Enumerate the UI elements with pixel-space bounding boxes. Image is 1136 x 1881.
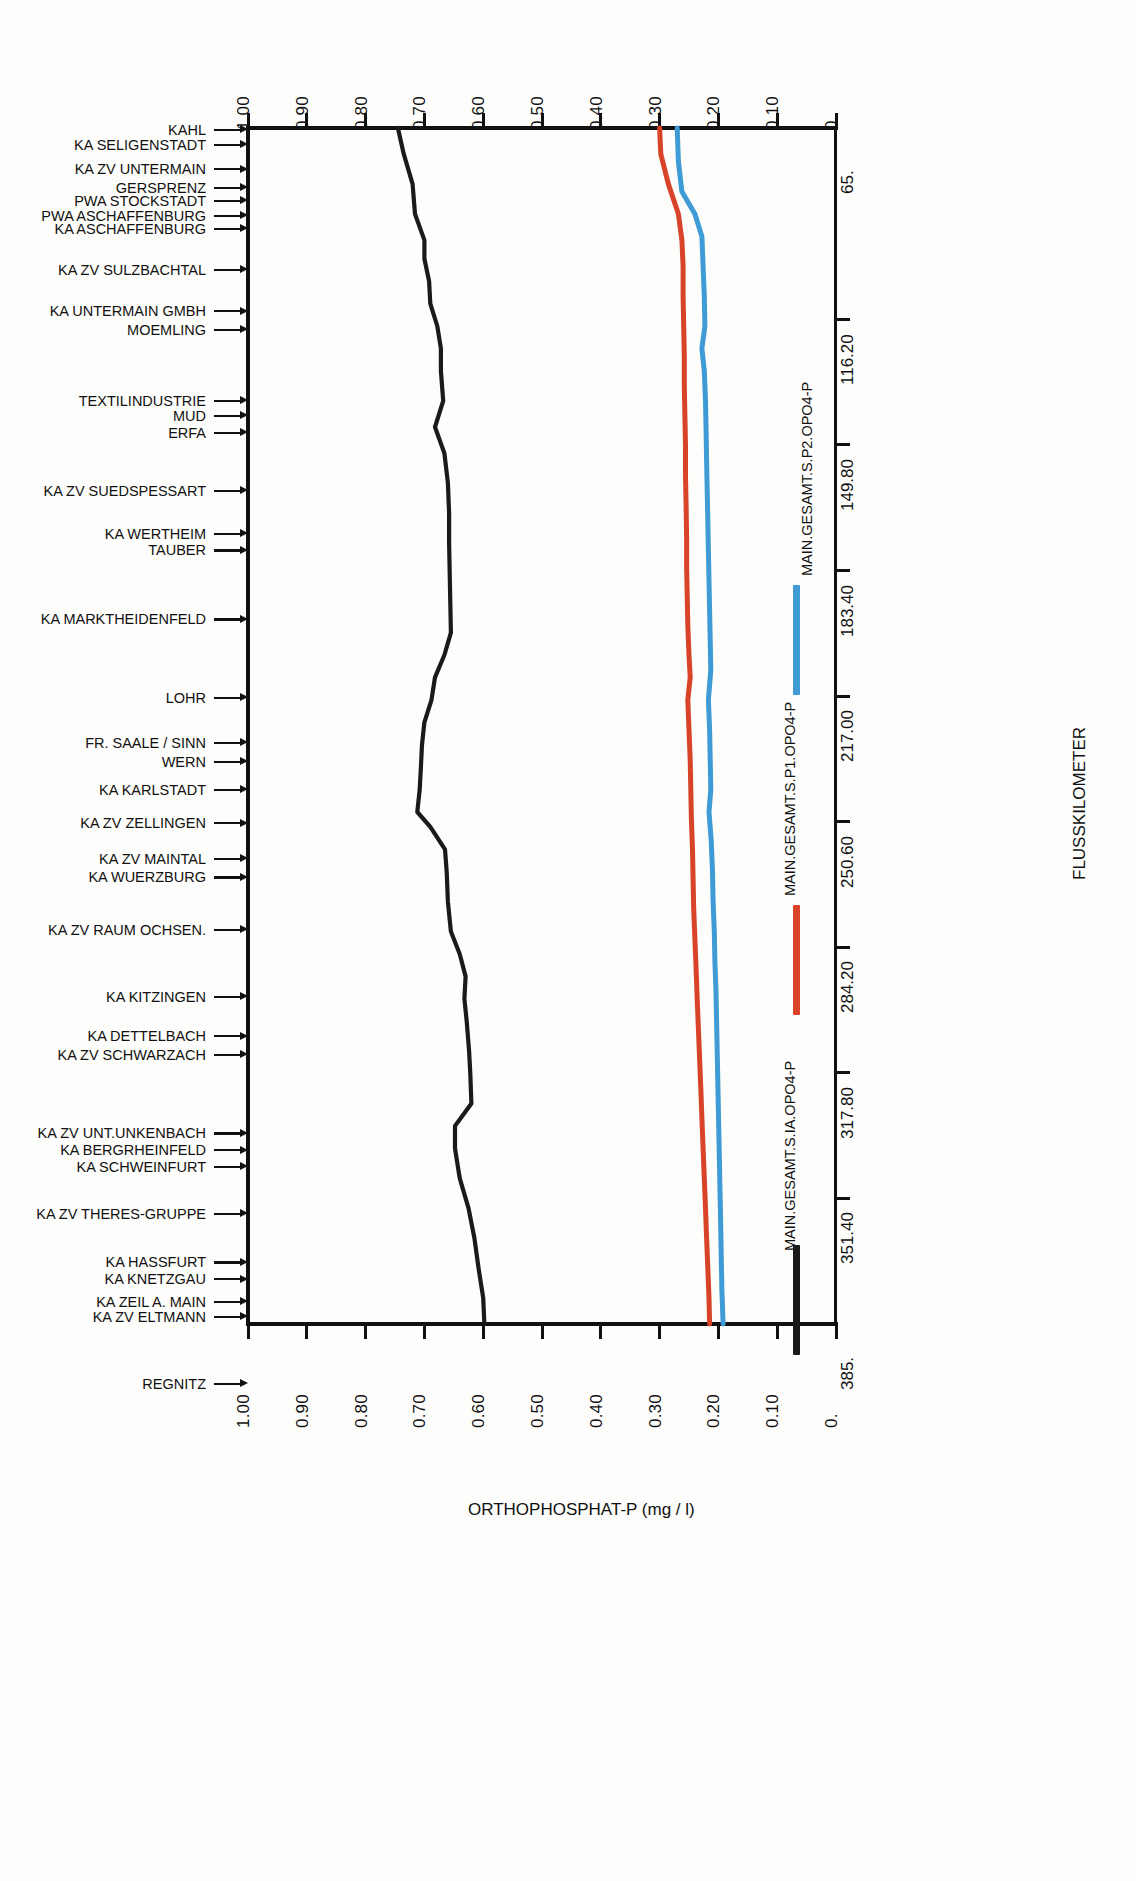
station-label: WERN [162,755,206,769]
arrow-right-icon [214,1379,248,1389]
x-tick-mark [776,1326,779,1339]
station-label-row: KA WERTHEIM [2,527,248,541]
arrow-right-icon [214,265,248,275]
station-label: KA SCHWEINFURT [77,1160,206,1174]
station-label-row: KA ASCHAFFENBURG [2,222,248,236]
x-tick-mark [541,1326,544,1339]
station-label-row: KA DETTELBACH [2,1029,248,1043]
arrow-right-icon [214,757,248,767]
y-tick-label: 284.20 [838,961,858,1013]
arrow-right-icon [214,1257,248,1267]
x-tick-label: 0.80 [352,96,372,130]
station-label-row: KA ZV UNTERMAIN [2,162,248,176]
station-label-row: KA SELIGENSTADT [2,138,248,152]
y-tick-mark [837,946,850,949]
station-label: KA ZV THERES-GRUPPE [36,1207,206,1221]
x-tick-label: 0.70 [410,1394,430,1428]
arrow-right-icon [214,1162,248,1172]
arrow-right-icon [214,1031,248,1041]
station-label-row: KA ZV THERES-GRUPPE [2,1207,248,1221]
arrow-right-icon [214,818,248,828]
station-label: KA KARLSTADT [99,783,206,797]
station-label: KA BERGRHEINFELD [60,1143,206,1157]
y-tick-label: 385. [838,1357,858,1390]
station-label: MUD [173,409,206,423]
station-label-list: KAHLKA SELIGENSTADTKA ZV UNTERMAINGERSPR… [0,0,248,1881]
y-tick-label: 149.80 [838,459,858,511]
arrow-right-icon [214,738,248,748]
x-tick-label: 0.90 [293,96,313,130]
station-label-row: KA ZV ZELLINGEN [2,816,248,830]
chart-root: 1.000.900.800.700.600.500.400.300.200.10… [0,0,1136,1881]
y-tick-label: 217.00 [838,710,858,762]
station-label: KA WERTHEIM [105,527,206,541]
station-label: MOEMLING [127,323,206,337]
station-label: REGNITZ [142,1377,206,1391]
station-label-row: TAUBER [2,543,248,557]
x-axis-title: ORTHOPHOSPHAT-P (mg / l) [468,1500,695,1520]
station-label-row: LOHR [2,691,248,705]
station-label-row: REGNITZ [2,1377,248,1391]
station-label-row: ERFA [2,426,248,440]
arrow-right-icon [214,486,248,496]
station-label-row: KA ZV SCHWARZACH [2,1048,248,1062]
x-tick-label: 0.50 [528,1394,548,1428]
x-tick-label: 0.50 [528,96,548,130]
x-tick-mark [717,1326,720,1339]
x-tick-label: 0.30 [646,96,666,130]
station-label: KA WUERZBURG [88,870,206,884]
station-label-row: WERN [2,755,248,769]
y-tick-label: 351.40 [838,1212,858,1264]
station-label-row: KAHL [2,123,248,137]
x-tick-label: 0.20 [704,96,724,130]
series-line [398,128,485,1324]
x-tick-mark [305,1326,308,1339]
station-label: KA ZEIL A. MAIN [96,1295,206,1309]
arrow-right-icon [214,325,248,335]
y-tick-mark [837,443,850,446]
arrow-right-icon [214,224,248,234]
station-label-row: KA ZV MAINTAL [2,852,248,866]
station-label: KA MARKTHEIDENFELD [41,612,206,626]
station-label-row: KA HASSFURT [2,1255,248,1269]
station-label: KA ZV MAINTAL [99,852,206,866]
arrow-right-icon [214,428,248,438]
x-tick-label: 0.30 [646,1394,666,1428]
station-label: LOHR [166,691,206,705]
arrow-right-icon [214,992,248,1002]
station-label-row: KA ZV SULZBACHTAL [2,263,248,277]
arrow-right-icon [214,411,248,421]
arrow-right-icon [214,306,248,316]
station-label: KA ZV SCHWARZACH [57,1048,206,1062]
station-label-row: TEXTILINDUSTRIE [2,394,248,408]
arrow-right-icon [214,211,248,221]
station-label-row: KA KITZINGEN [2,990,248,1004]
station-label: TEXTILINDUSTRIE [79,394,206,408]
x-tick-label: 0. [822,1413,842,1428]
y-tick-mark [837,1197,850,1200]
station-label: KA ZV SUEDSPESSART [43,484,206,498]
station-label: KA ASCHAFFENBURG [55,222,206,236]
x-tick-label: 0.10 [763,1394,783,1428]
station-label-row: KA MARKTHEIDENFELD [2,612,248,626]
x-tick-label: 0.80 [352,1394,372,1428]
arrow-right-icon [214,925,248,935]
series-plot [248,128,836,1324]
station-label: PWA STOCKSTADT [74,194,206,208]
station-label: KA SELIGENSTADT [74,138,206,152]
station-label-row: KA KARLSTADT [2,783,248,797]
arrow-right-icon [214,1209,248,1219]
x-tick-label: 0.60 [469,1394,489,1428]
station-label-row: KA ZV RAUM OCHSEN. [2,923,248,937]
station-label-row: KA ZEIL A. MAIN [2,1295,248,1309]
arrow-right-icon [214,164,248,174]
x-tick-label: 0.40 [587,1394,607,1428]
station-label-row: KA ZV UNT.UNKENBACH [2,1126,248,1140]
station-label: KA DETTELBACH [88,1029,206,1043]
station-label: FR. SAALE / SINN [85,736,206,750]
x-tick-mark [423,1326,426,1339]
station-label: KA ZV ELTMANN [93,1310,206,1324]
station-label-row: KA ZV SUEDSPESSART [2,484,248,498]
arrow-right-icon [214,1312,248,1322]
y-tick-label: 250.60 [838,836,858,888]
